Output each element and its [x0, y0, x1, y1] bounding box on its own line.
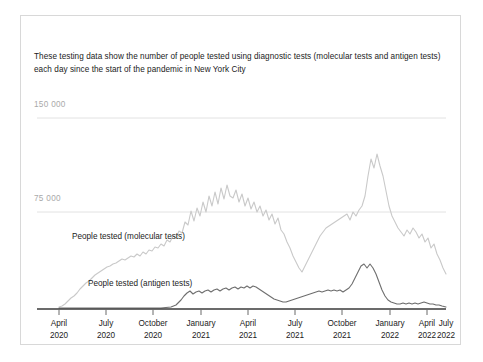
series-annotation-molecular: People tested (molecular tests) [72, 231, 185, 243]
x-axis-label-6-year: 2021 [316, 330, 368, 342]
x-axis-ticks [59, 309, 462, 315]
series-annotation-molecular-line2: (molecular tests) [124, 232, 185, 241]
x-axis-label-9-month: July [420, 318, 472, 330]
x-axis-label-4-year: 2021 [222, 330, 274, 342]
gridlines [37, 118, 446, 212]
chart-card: These testing data show the number of pe… [20, 15, 461, 345]
x-axis-label-6: October 2021 [316, 318, 368, 341]
x-axis-label-9-year: 2022 [420, 330, 472, 342]
x-axis-label-4-month: April [222, 318, 274, 330]
x-axis-label-2-month: October [127, 318, 179, 330]
line-chart-plot [21, 16, 462, 346]
series-annotation-antigen-line2: (antigen tests) [140, 279, 192, 288]
x-axis-label-0: April 2020 [33, 318, 85, 341]
x-axis-label-4: April 2021 [222, 318, 274, 341]
x-axis-label-1: July 2020 [80, 318, 132, 341]
x-axis-label-1-month: July [80, 318, 132, 330]
x-axis-label-3-month: January [175, 318, 227, 330]
x-axis-label-2-year: 2020 [127, 330, 179, 342]
x-axis-label-3: January 2021 [175, 318, 227, 341]
x-axis-label-1-year: 2020 [80, 330, 132, 342]
x-axis-label-2: October 2020 [127, 318, 179, 341]
x-axis-label-9: July 2022 [420, 318, 472, 341]
x-axis-label-6-month: October [316, 318, 368, 330]
x-axis-label-5-year: 2021 [269, 330, 321, 342]
series-annotation-antigen-line1: People tested [88, 279, 138, 288]
x-axis-label-5-month: July [269, 318, 321, 330]
x-axis-label-5: July 2021 [269, 318, 321, 341]
series-annotation-antigen: People tested (antigen tests) [88, 278, 192, 290]
x-axis-label-3-year: 2021 [175, 330, 227, 342]
x-axis-label-0-year: 2020 [33, 330, 85, 342]
x-axis-label-0-month: April [33, 318, 85, 330]
series-annotation-molecular-line1: People tested [72, 232, 122, 241]
